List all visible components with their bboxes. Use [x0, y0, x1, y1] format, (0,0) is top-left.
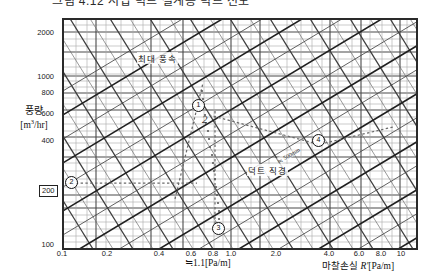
marker-2[interactable]: 2: [65, 176, 78, 189]
x-axis-note: ≒1.1[Pa/m]: [185, 257, 231, 268]
chart-svg: [63, 19, 417, 249]
x-tick-0.2: 0.2: [93, 250, 121, 258]
y-tick-100: 100: [10, 241, 54, 249]
chart-plot-area[interactable]: [62, 18, 418, 250]
duct-chart-page: 그림 4.12 저압 덕트 설계용 덕트 선도 풍량 [m3/hr] 2000 …: [0, 0, 425, 280]
y-tick-1000: 1000: [10, 73, 54, 81]
x-tick-10: 10: [387, 250, 415, 258]
y-tick-600: 600: [10, 110, 54, 118]
annotation-duct-diameter: 덕트 직경: [247, 164, 288, 176]
y-tick-2000: 2000: [10, 29, 54, 37]
annotation-max-velocity: 최대 풍속: [137, 52, 178, 64]
marker-4[interactable]: 4: [312, 134, 325, 147]
y-tick-200-highlighted: 200: [39, 185, 58, 197]
figure-caption: 그림 4.12 저압 덕트 설계용 덕트 선도: [52, 0, 250, 8]
x-tick-2.0: 2.0: [262, 250, 290, 258]
y-axis-unit: [m3/hr]: [8, 118, 60, 132]
marker-3[interactable]: 3: [212, 222, 225, 235]
x-axis-title: 마찰손실 R'[Pa/m]: [322, 258, 394, 272]
marker-1[interactable]: 1: [192, 99, 205, 112]
handwritten-marker-2: 2: [202, 113, 208, 125]
x-axis-title-text: 마찰손실: [322, 261, 358, 271]
x-axis-unit: [Pa/m]: [368, 261, 394, 271]
x-tick-0.1: 0.1: [48, 250, 76, 258]
y-tick-800: 800: [10, 89, 54, 97]
y-axis-unit-exponent: 3: [31, 118, 34, 125]
x-tick-4.0: 4.0: [315, 250, 343, 258]
y-tick-400: 400: [10, 137, 54, 145]
grid-horizontal-major: [63, 32, 417, 208]
x-tick-0.4: 0.4: [145, 250, 173, 258]
